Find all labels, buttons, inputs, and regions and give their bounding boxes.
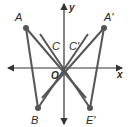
label-origin: O xyxy=(51,71,59,81)
label-y-axis: y xyxy=(69,3,75,13)
label-a-prime: A' xyxy=(104,12,113,23)
point-a-prime xyxy=(101,25,107,31)
point-e-prime xyxy=(87,105,93,111)
reflection-diagram: A A' B E' C C' O y x xyxy=(0,0,130,127)
segment-e-prime-through-o xyxy=(40,34,90,108)
segment-b-through-o xyxy=(38,34,88,108)
label-b: B xyxy=(31,115,38,126)
label-e-prime: E' xyxy=(86,115,95,126)
label-x-axis: x xyxy=(117,70,123,80)
point-a xyxy=(23,25,29,31)
label-c: C xyxy=(52,41,60,52)
point-b xyxy=(35,105,41,111)
label-a: A xyxy=(15,12,22,23)
label-c-prime: C' xyxy=(69,41,79,52)
